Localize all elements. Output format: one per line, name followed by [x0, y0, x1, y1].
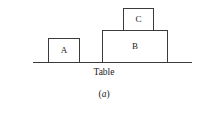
block-c-label: C: [135, 15, 141, 24]
block-a: A: [48, 38, 80, 63]
physics-blocks-figure: C B A Table (a): [0, 0, 208, 119]
block-b: B: [102, 30, 168, 63]
block-b-label: B: [132, 42, 138, 51]
block-c: C: [123, 8, 154, 31]
block-a-label: A: [61, 46, 68, 55]
table-label: Table: [0, 66, 208, 78]
table-surface-line: [33, 62, 192, 63]
caption-close-paren: ): [106, 89, 109, 99]
figure-caption: (a): [0, 88, 208, 100]
